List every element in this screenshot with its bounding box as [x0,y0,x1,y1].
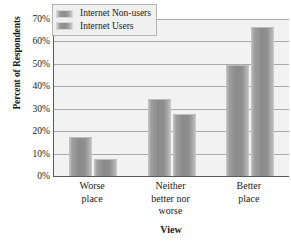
y-axis-tick-label: 30% [22,104,50,114]
y-axis-tick-label: 50% [22,59,50,69]
y-axis-tick-label: 10% [22,149,50,159]
bar [173,114,196,176]
x-axis-category-label: Betterplace [210,180,288,205]
x-axis-title: View [53,224,289,235]
y-axis-tick-labels: 0%10%20%30%40%50%60%70% [22,14,50,176]
y-axis-tick-label: 40% [22,81,50,91]
x-axis-category-labels: WorseplaceNeitherbetter norworseBetterpl… [53,180,289,226]
y-axis-tick-label: 60% [22,36,50,46]
x-axis-category-label: Worseplace [53,180,131,205]
legend: Internet Non-usersInternet Users [52,4,157,36]
x-axis-category-label: Neitherbetter norworse [131,180,209,218]
x-axis-category-label-line: worse [131,205,209,218]
bar [148,99,171,176]
x-axis-category-label-line: place [210,193,288,206]
legend-swatch-icon [56,22,73,30]
x-axis-category-label-line: Neither [131,180,209,193]
bar-chart: Percent of Respondents 0%10%20%30%40%50%… [0,0,291,249]
y-axis-tick-label: 20% [22,126,50,136]
y-axis-tick-label: 0% [22,171,50,181]
legend-item: Internet Non-users [56,8,151,20]
x-axis-category-label-line: place [53,193,131,206]
plot-area [53,19,289,177]
plot-inner [54,19,289,176]
bar [94,159,117,176]
y-axis-tick-label: 70% [22,14,50,24]
x-axis-category-label-line: better nor [131,193,209,206]
legend-swatch-icon [56,10,73,18]
legend-label: Internet Users [80,21,134,32]
x-axis-category-label-line: Worse [53,180,131,193]
bar [226,65,249,176]
legend-label: Internet Non-users [80,8,151,19]
x-axis-category-label-line: Better [210,180,288,193]
bar [251,27,274,176]
legend-item: Internet Users [56,20,151,32]
bar [69,137,92,176]
